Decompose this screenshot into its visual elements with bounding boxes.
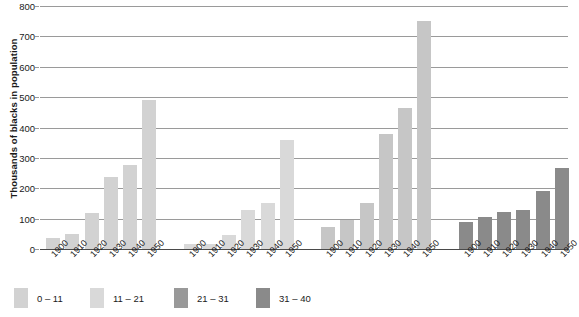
y-axis-tick-mark — [35, 97, 39, 98]
legend-item[interactable]: 0 – 11 — [14, 288, 63, 308]
y-axis-tick-label: 600 — [19, 61, 35, 72]
gridline — [40, 67, 568, 68]
legend-swatch-icon — [174, 288, 188, 308]
bar — [104, 177, 118, 249]
y-axis-tick-mark — [35, 249, 39, 250]
gridline — [40, 6, 568, 7]
bar — [280, 140, 294, 249]
y-axis-tick-mark — [35, 36, 39, 37]
y-axis-tick-label: 200 — [19, 183, 35, 194]
y-axis-tick-mark — [35, 219, 39, 220]
legend-label: 21 – 31 — [197, 293, 229, 304]
bar — [398, 108, 412, 249]
y-axis-tick-label: 700 — [19, 31, 35, 42]
y-axis-tick-label: 300 — [19, 152, 35, 163]
gridline — [40, 158, 568, 159]
gridline — [40, 128, 568, 129]
legend-label: 11 – 21 — [113, 293, 144, 304]
gridline — [40, 188, 568, 189]
bar — [142, 100, 156, 249]
y-axis-tick-mark — [35, 128, 39, 129]
y-axis-tick-mark — [35, 158, 39, 159]
y-axis-tick-mark — [35, 67, 39, 68]
plot-area: 0100200300400500600700800 — [40, 6, 568, 249]
y-axis-tick-label: 800 — [19, 1, 35, 12]
gridline — [40, 36, 568, 37]
y-axis-tick-label: 500 — [19, 92, 35, 103]
legend-swatch-icon — [256, 288, 270, 308]
y-axis-tick-mark — [35, 188, 39, 189]
y-axis-tick-label: 100 — [19, 213, 35, 224]
bar — [417, 21, 431, 249]
legend-label: 0 – 11 — [37, 293, 63, 304]
legend-item[interactable]: 11 – 21 — [90, 288, 144, 308]
bar — [555, 168, 569, 249]
bar — [379, 134, 393, 249]
y-axis-title: Thousands of blacks in population — [8, 19, 19, 219]
bar — [536, 191, 550, 249]
bar — [123, 165, 137, 249]
legend-item[interactable]: 21 – 31 — [174, 288, 229, 308]
legend-item[interactable]: 31 – 40 — [256, 288, 311, 308]
legend-swatch-icon — [90, 288, 104, 308]
y-axis-tick-mark — [35, 6, 39, 7]
gridline — [40, 97, 568, 98]
legend-label: 31 – 40 — [279, 293, 311, 304]
y-axis-tick-label: 400 — [19, 122, 35, 133]
legend-swatch-icon — [14, 288, 28, 308]
